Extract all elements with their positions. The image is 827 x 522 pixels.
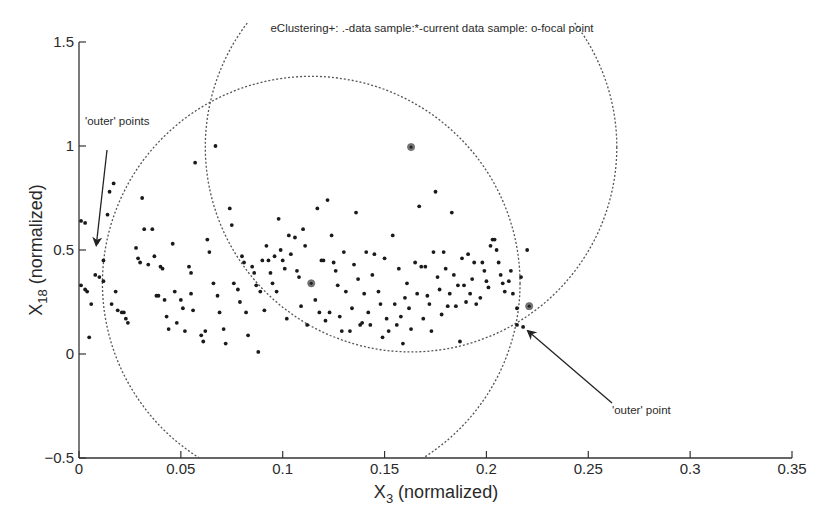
data-point <box>279 248 283 252</box>
data-point <box>328 311 332 315</box>
data-point <box>434 190 438 194</box>
data-point <box>299 304 303 308</box>
data-point <box>322 259 326 263</box>
data-point <box>440 313 444 317</box>
data-point <box>79 283 83 287</box>
x-tick-label: 0.3 <box>680 460 701 477</box>
data-point <box>122 311 126 315</box>
x-tick-label: 0.05 <box>166 460 195 477</box>
cluster-circles <box>102 0 616 490</box>
data-point <box>93 273 97 277</box>
data-point <box>199 333 203 337</box>
data-point <box>181 306 185 310</box>
data-point <box>487 286 491 290</box>
data-point <box>383 256 387 260</box>
annotation-outer-points: 'outer' points <box>85 115 150 127</box>
data-point <box>442 250 446 254</box>
data-point <box>157 294 161 298</box>
data-point <box>336 283 340 287</box>
data-point <box>205 238 209 242</box>
data-point <box>344 290 348 294</box>
data-point <box>165 315 169 319</box>
data-point <box>273 254 277 258</box>
data-point <box>97 275 101 279</box>
data-point <box>395 323 399 327</box>
data-point <box>427 302 431 306</box>
data-point <box>354 211 358 215</box>
data-point <box>470 277 474 281</box>
data-point <box>454 304 458 308</box>
data-point <box>138 261 142 265</box>
data-point <box>515 323 519 327</box>
data-point <box>222 327 226 331</box>
data-point <box>460 256 464 260</box>
data-point <box>108 190 112 194</box>
focal-points <box>308 143 533 309</box>
data-point <box>385 317 389 321</box>
data-point <box>430 329 434 333</box>
data-point <box>152 254 156 258</box>
data-point <box>265 244 269 248</box>
y-tick-label: −0.5 <box>44 449 74 466</box>
data-point <box>297 275 301 279</box>
data-point <box>240 254 244 258</box>
data-point <box>116 308 120 312</box>
data-point <box>372 252 376 256</box>
data-point <box>421 317 425 321</box>
data-point <box>269 271 273 275</box>
data-point <box>356 277 360 281</box>
data-point <box>521 325 525 329</box>
data-point <box>140 196 144 200</box>
data-point <box>464 300 468 304</box>
x-axis-label-subscript: 3 <box>386 491 393 506</box>
data-point <box>317 311 321 315</box>
data-point <box>338 315 342 319</box>
data-point <box>102 259 106 263</box>
data-point <box>303 244 307 248</box>
data-point <box>415 292 419 296</box>
data-point <box>87 335 91 339</box>
chart-canvas: 00.050.10.150.20.250.30.35−0.500.511.5 '… <box>0 0 827 522</box>
data-point <box>150 227 154 231</box>
data-point <box>193 161 197 165</box>
data-point <box>466 252 470 256</box>
data-point <box>252 271 256 275</box>
data-point <box>407 306 411 310</box>
data-point <box>485 279 489 283</box>
x-tick-label: 0.35 <box>777 460 806 477</box>
data-point <box>238 300 242 304</box>
data-point <box>503 290 507 294</box>
data-point <box>352 263 356 267</box>
x-tick-label: 0.15 <box>370 460 399 477</box>
axes: 00.050.10.150.20.250.30.35−0.500.511.5 <box>44 33 806 477</box>
data-point <box>350 306 354 310</box>
data-point <box>364 250 368 254</box>
data-point <box>254 283 258 287</box>
data-point <box>146 263 150 267</box>
data-point <box>480 261 484 265</box>
data-point <box>271 281 275 285</box>
data-point <box>482 269 486 273</box>
x-tick-label: 0.1 <box>272 460 293 477</box>
data-point <box>444 267 448 271</box>
data-point <box>448 292 452 296</box>
y-tick-label: 0.5 <box>53 241 74 258</box>
arrow-outer-point <box>528 331 612 403</box>
cluster-circle <box>205 0 617 352</box>
data-point <box>379 302 383 306</box>
data-point <box>216 294 220 298</box>
data-point <box>381 335 385 339</box>
data-point <box>89 302 93 306</box>
data-point <box>246 333 250 337</box>
data-point <box>212 281 216 285</box>
data-point <box>458 340 462 344</box>
data-point <box>187 265 191 269</box>
data-point <box>250 265 254 269</box>
data-point <box>114 290 118 294</box>
data-point <box>260 259 264 263</box>
chart-title: eClustering+: .-data sample:*-current da… <box>270 22 594 34</box>
data-point <box>472 261 476 265</box>
data-point <box>161 267 165 271</box>
data-point <box>293 236 297 240</box>
data-point <box>368 323 372 327</box>
